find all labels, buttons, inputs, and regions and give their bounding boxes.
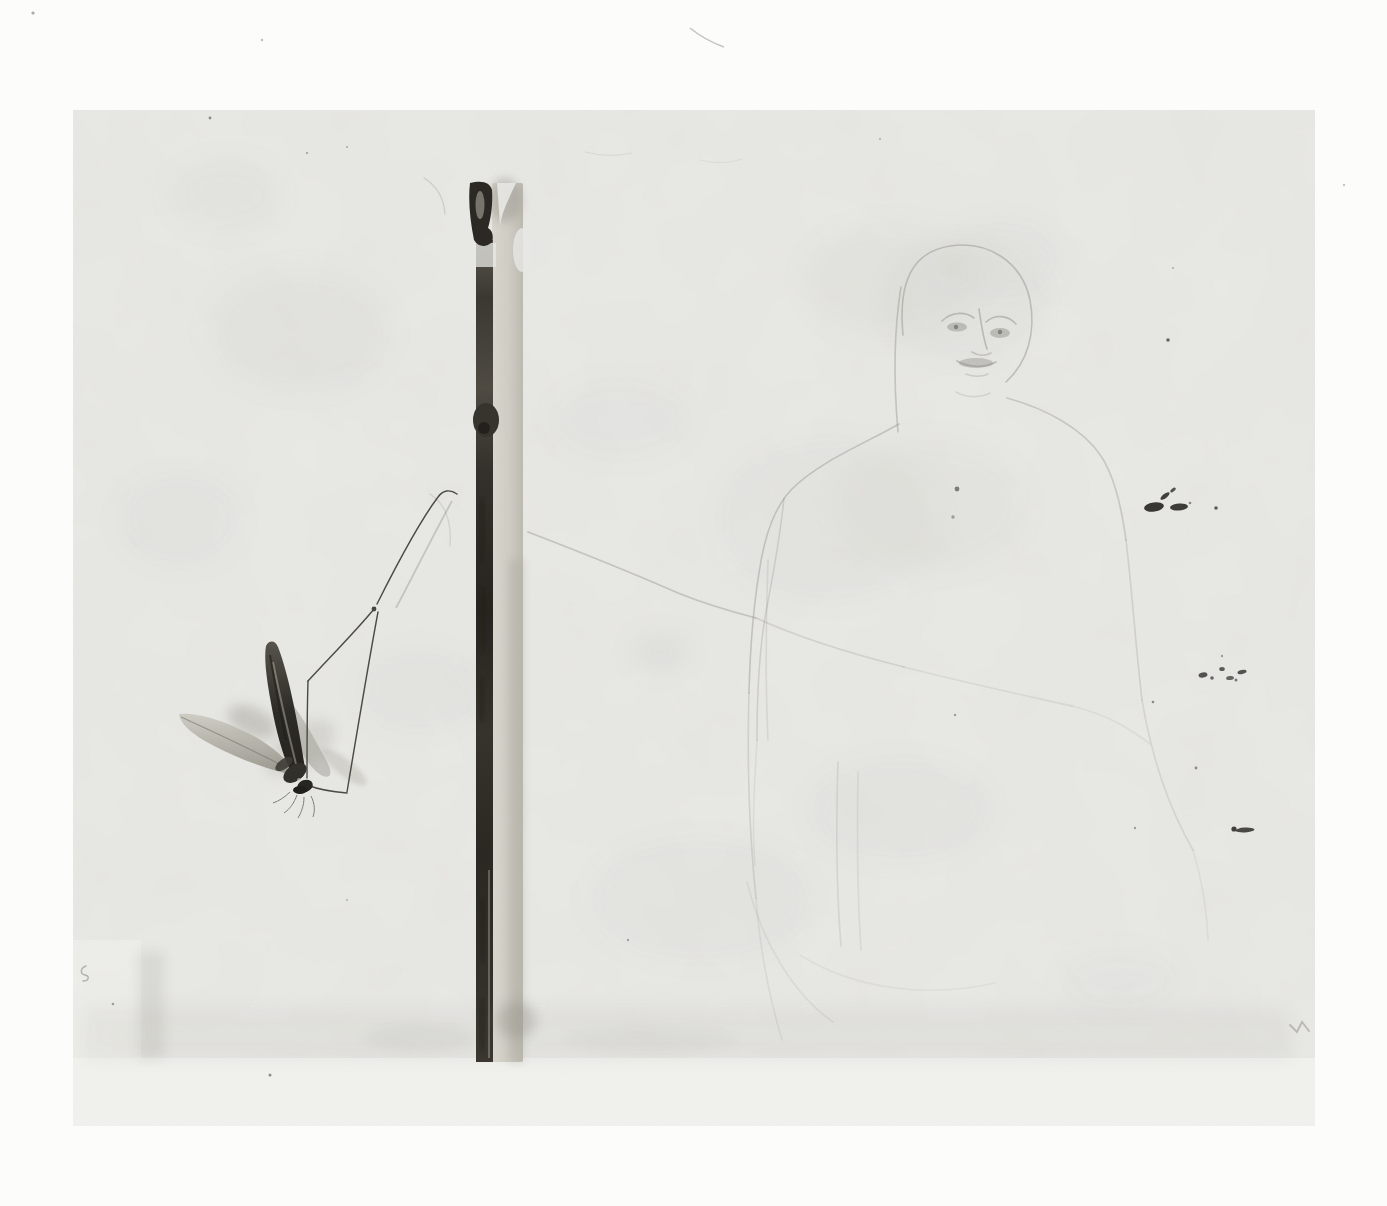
- page-speck: [261, 39, 263, 41]
- film-grain: [73, 110, 1315, 1126]
- artwork-photo: [0, 0, 1387, 1206]
- page-speck: [31, 11, 34, 14]
- page-speck: [1343, 184, 1345, 186]
- stray-hair: [690, 28, 724, 47]
